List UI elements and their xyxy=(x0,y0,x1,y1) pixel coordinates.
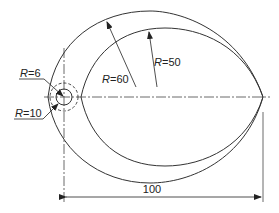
label-r50: R=50 xyxy=(154,56,181,68)
r10-leader xyxy=(43,104,58,119)
r6-leader xyxy=(44,79,63,96)
label-dimension-100: 100 xyxy=(143,183,161,195)
label-r10: R=10 xyxy=(15,107,42,119)
label-r6: R=6 xyxy=(20,67,41,79)
label-r60: R=60 xyxy=(102,73,129,85)
drawing-canvas: R=6 R=10 R=60 R=50 100 xyxy=(0,0,279,213)
